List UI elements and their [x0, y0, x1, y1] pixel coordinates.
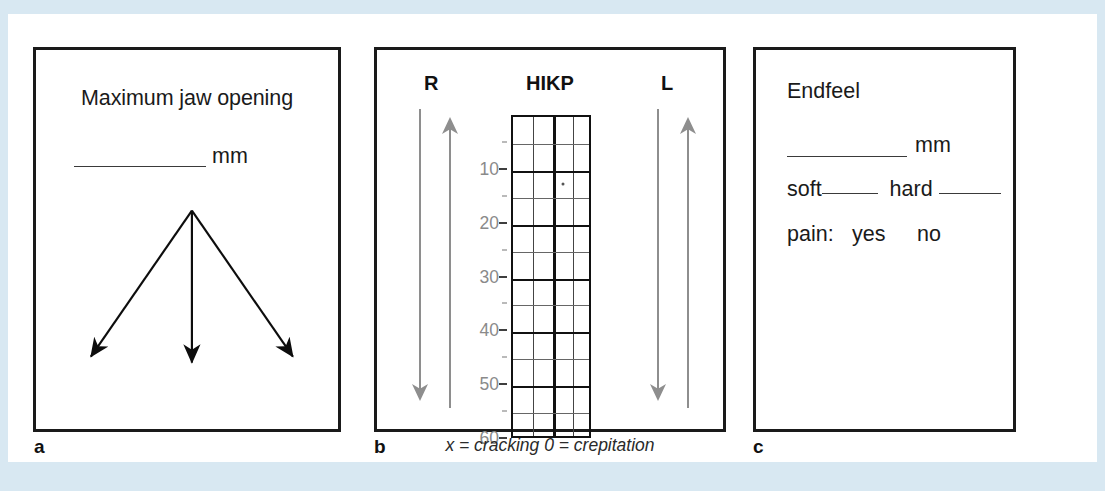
grid-row-line-55mm [513, 413, 589, 414]
scale-label-50: 50 [480, 374, 499, 395]
scale-minor-tick-35 [502, 303, 507, 304]
pain-yes-option[interactable]: yes [852, 222, 885, 247]
panel-c-measurement-row: mm [787, 133, 1002, 163]
endfeel-hard-label: hard [890, 177, 933, 201]
grid-row-line-30mm [513, 279, 589, 281]
grid-row-line-20mm [513, 225, 589, 227]
panel-a-letter: a [34, 436, 45, 458]
scale-label-30: 30 [480, 266, 499, 287]
grid-row-line-40mm [513, 332, 589, 334]
arrow-down-right [192, 211, 293, 357]
panel-b-joint-sounds-chart: R HIKP L 102030405060 [374, 47, 726, 432]
scale-tick-10 [499, 168, 507, 170]
panel-c-endfeel: Endfeel mm soft hard pain: yes no [753, 47, 1016, 432]
panel-b-caption: x = cracking 0 = crepitation [374, 435, 726, 456]
panel-b-heading-left: L [661, 72, 673, 95]
panel-b-right-side-arrows [407, 107, 467, 410]
panel-c-measurement-blank[interactable] [787, 156, 907, 157]
panel-b-left-side-arrows [645, 107, 705, 410]
endfeel-hard-blank[interactable] [939, 193, 1001, 194]
panel-b-letter: b [374, 436, 386, 458]
scale-tick-20 [499, 222, 507, 224]
panel-b-recording-grid[interactable] [511, 115, 591, 438]
scale-minor-tick-25 [502, 249, 507, 250]
panel-c-title: Endfeel [787, 79, 860, 104]
endfeel-soft-blank[interactable] [822, 193, 878, 194]
panel-c-letter: c [753, 436, 764, 458]
grid-row-line-5mm [513, 144, 589, 145]
scale-minor-tick-15 [502, 195, 507, 196]
scale-tick-30 [499, 276, 507, 278]
grid-row-line-50mm [513, 386, 589, 388]
grid-row-line-10mm [513, 171, 589, 173]
panel-c-mm-unit: mm [915, 133, 951, 158]
scale-minor-tick-55 [502, 411, 507, 412]
figure-canvas: Maximum jaw opening mm a R HIKP L [8, 14, 1097, 462]
scale-minor-tick-45 [502, 357, 507, 358]
scale-minor-tick-5 [502, 141, 507, 142]
panel-c-endfeel-row: soft hard [787, 177, 1007, 207]
scale-label-40: 40 [480, 320, 499, 341]
scale-tick-40 [499, 329, 507, 331]
grid-row-line-15mm [513, 198, 589, 199]
scale-label-20: 20 [480, 212, 499, 233]
grid-mark-0 [562, 183, 565, 186]
grid-row-line-45mm [513, 359, 589, 360]
scale-label-10: 10 [480, 158, 499, 179]
grid-row-line-25mm [513, 252, 589, 253]
panel-a-maximum-jaw-opening: Maximum jaw opening mm [33, 47, 341, 432]
arrow-down-left [91, 211, 192, 357]
panel-b-mm-scale: 102030405060 [465, 98, 507, 418]
scale-tick-50 [499, 383, 507, 385]
grid-row-line-35mm [513, 305, 589, 306]
endfeel-soft-label: soft [787, 177, 822, 201]
pain-no-option[interactable]: no [917, 222, 941, 247]
panel-a-jaw-movement-arrows [36, 50, 338, 429]
pain-label: pain: [787, 222, 834, 246]
panel-c-pain-row: pain: yes no [787, 222, 1007, 252]
